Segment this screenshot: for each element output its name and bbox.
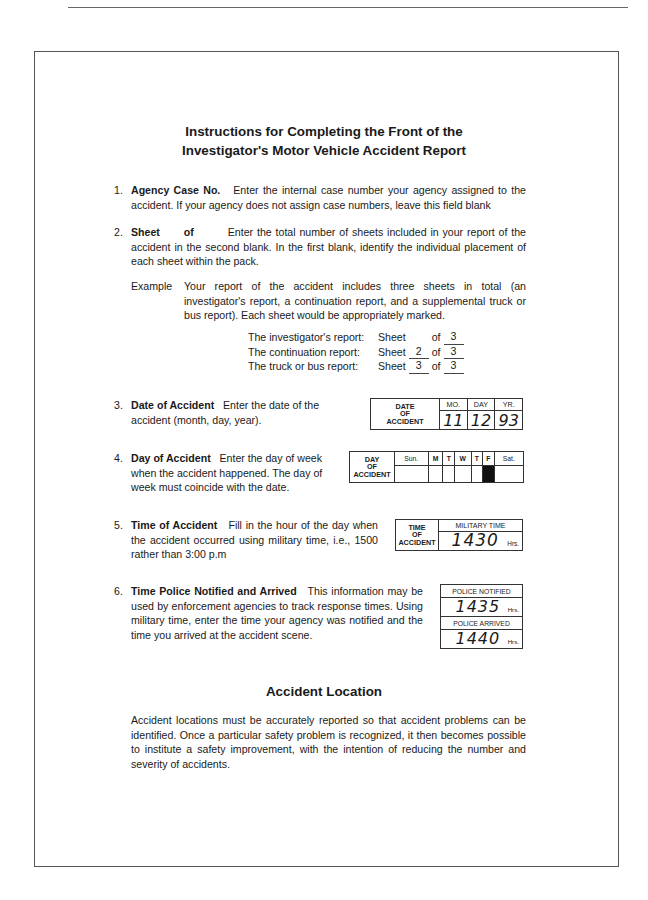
date-box-label: DATE OF ACCIDENT — [371, 399, 440, 430]
example-row: The truck or bus report: Sheet 3 of 3 — [248, 359, 467, 374]
day-header-sun: Sun. — [395, 452, 429, 466]
item-number-6: 6. — [114, 584, 123, 599]
police-notified-label: POLICE NOTIFIED — [441, 585, 523, 598]
sheet-total: 3 — [444, 345, 464, 360]
item-time-police: Time Police Notified and Arrived This in… — [131, 584, 423, 642]
item-number-1: 1. — [114, 183, 123, 198]
military-time-value: 1430 — [452, 530, 499, 550]
title-line-2: Investigator's Motor Vehicle Accident Re… — [0, 141, 648, 160]
sheet-label: Sheet — [378, 359, 406, 374]
of-label: of — [432, 359, 441, 374]
day-header-mon: M — [428, 452, 443, 466]
row-label: The investigator's report: — [248, 330, 378, 345]
sheet-total: 3 — [444, 330, 464, 345]
day-cell-fri-selected[interactable] — [483, 466, 495, 483]
sheet-label: Sheet — [378, 345, 406, 360]
day-cell-thu[interactable] — [471, 466, 483, 483]
item-number-4: 4. — [114, 451, 123, 466]
day-cell-tue[interactable] — [443, 466, 455, 483]
police-arrived-label: POLICE ARRIVED — [441, 617, 523, 630]
label-line: ACCIDENT — [371, 418, 439, 426]
page-title: Instructions for Completing the Front of… — [0, 122, 648, 160]
example-text: Your report of the accident includes thr… — [184, 279, 526, 323]
time-of-accident-box: TIME OF ACCIDENT MILITARY TIME 1430 Hrs. — [395, 519, 523, 551]
day-header-fri: F — [483, 452, 495, 466]
police-arrived-value: 1440 — [455, 629, 500, 648]
date-of-accident-box: DATE OF ACCIDENT MO. DAY YR. 11 12 93 — [370, 398, 523, 430]
sheet-current: 3 — [409, 359, 429, 374]
sheet-current — [409, 330, 429, 345]
of-label: of — [432, 330, 441, 345]
sheet-current: 2 — [409, 345, 429, 360]
time-box-label: TIME OF ACCIDENT — [396, 520, 439, 551]
item-number-5: 5. — [114, 518, 123, 533]
section-title-accident-location: Accident Location — [0, 684, 648, 699]
item-heading: Day of Accident — [131, 452, 211, 464]
label-line: ACCIDENT — [396, 539, 438, 547]
day-value[interactable]: 12 — [467, 411, 495, 430]
day-box-label: DAY OF ACCIDENT — [350, 452, 395, 483]
item-heading: Time of Accident — [131, 519, 217, 531]
month-value[interactable]: 11 — [440, 411, 468, 430]
item-heading-of: of — [184, 226, 194, 238]
item-heading: Date of Accident — [131, 399, 214, 411]
day-of-accident-box: DAY OF ACCIDENT Sun. M T W T F Sat. — [349, 451, 524, 483]
example-row: The continuation report: Sheet 2 of 3 — [248, 345, 467, 360]
item-day-of-accident: Day of Accident Enter the day of week wh… — [131, 451, 333, 495]
hrs-unit: Hrs. — [508, 638, 519, 645]
day-header: DAY — [467, 399, 495, 411]
row-label: The continuation report: — [248, 345, 378, 360]
item-number-2: 2. — [114, 225, 123, 240]
label-line: ACCIDENT — [350, 471, 394, 479]
day-cell-wed[interactable] — [454, 466, 471, 483]
hrs-unit: Hrs. — [507, 540, 519, 547]
day-header-thu: T — [471, 452, 483, 466]
hrs-unit: Hrs. — [508, 606, 519, 613]
example-sheet-table: The investigator's report: Sheet of 3 Th… — [248, 330, 467, 374]
item-time-of-accident: Time of Accident Fill in the hour of the… — [131, 518, 378, 562]
police-notified-value: 1435 — [455, 597, 500, 616]
year-header: YR. — [495, 399, 523, 411]
police-notified-cell[interactable]: 1435 Hrs. — [441, 598, 523, 617]
example-label: Example — [131, 279, 172, 294]
example-row: The investigator's report: Sheet of 3 — [248, 330, 467, 345]
day-header-tue: T — [443, 452, 455, 466]
sheet-total: 3 — [444, 359, 464, 374]
day-header-sat: Sat. — [494, 452, 523, 466]
of-label: of — [432, 345, 441, 360]
day-cell-sat[interactable] — [494, 466, 523, 483]
day-header-wed: W — [454, 452, 471, 466]
police-arrived-cell[interactable]: 1440 Hrs. — [441, 630, 523, 649]
item-agency-case-no: Agency Case No. Enter the internal case … — [131, 183, 526, 212]
row-label: The truck or bus report: — [248, 359, 378, 374]
item-sheet: Sheetof Enter the total number of sheets… — [131, 225, 526, 269]
police-times-box: POLICE NOTIFIED 1435 Hrs. POLICE ARRIVED… — [440, 584, 523, 649]
item-heading: Sheet — [131, 226, 160, 238]
top-rule — [68, 7, 628, 8]
month-header: MO. — [440, 399, 468, 411]
item-heading: Time Police Notified and Arrived — [131, 585, 297, 597]
military-time-cell[interactable]: 1430 Hrs. — [439, 532, 523, 551]
year-value[interactable]: 93 — [495, 411, 523, 430]
day-cell-sun[interactable] — [395, 466, 429, 483]
day-cell-mon[interactable] — [428, 466, 443, 483]
item-heading: Agency Case No. — [131, 184, 220, 196]
item-number-3: 3. — [114, 398, 123, 413]
accident-location-text: Accident locations must be accurately re… — [131, 713, 526, 771]
sheet-label: Sheet — [378, 330, 406, 345]
title-line-1: Instructions for Completing the Front of… — [0, 122, 648, 141]
item-date-of-accident: Date of Accident Enter the date of the a… — [131, 398, 341, 427]
